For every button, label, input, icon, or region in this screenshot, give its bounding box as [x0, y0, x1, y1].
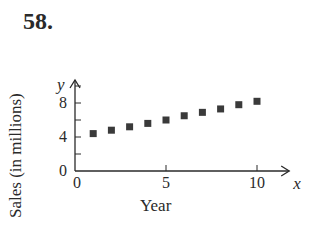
y-tick-label: 8	[59, 94, 67, 111]
data-point	[199, 109, 206, 116]
data-point	[108, 127, 115, 134]
data-points	[90, 98, 261, 137]
data-point	[126, 123, 133, 130]
data-point	[217, 105, 224, 112]
data-point	[254, 98, 261, 105]
data-point	[235, 101, 242, 108]
x-tick-label: 10	[249, 174, 265, 191]
y-tick-label: 4	[59, 128, 67, 145]
data-point	[181, 112, 188, 119]
x-tick-label: 0	[73, 174, 81, 191]
data-point	[90, 130, 97, 137]
scatter-chart: 0480510xy	[0, 0, 324, 230]
x-variable-label: x	[292, 174, 301, 193]
y-tick-label: 0	[59, 162, 67, 179]
y-variable-label: y	[55, 75, 65, 94]
data-point	[163, 117, 170, 124]
data-point	[144, 120, 151, 127]
x-tick-label: 5	[162, 174, 170, 191]
